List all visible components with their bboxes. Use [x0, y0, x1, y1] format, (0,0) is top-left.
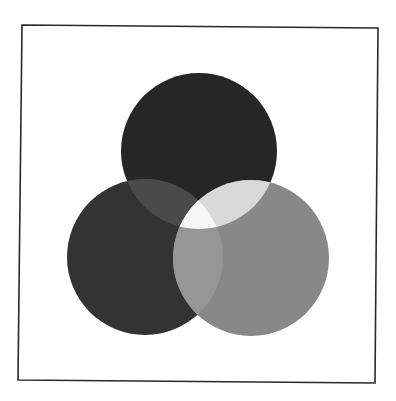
- venn-diagram: [0, 0, 396, 401]
